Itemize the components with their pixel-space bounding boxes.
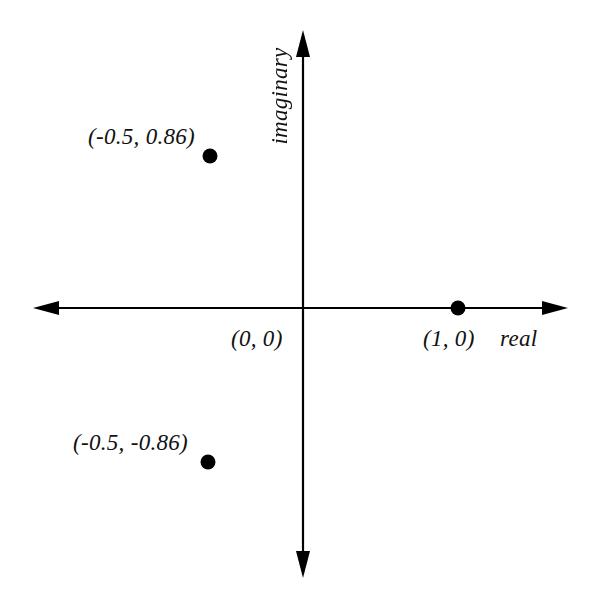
real-axis-label: real (500, 326, 537, 352)
data-point-marker (451, 301, 466, 316)
point-label-one-zero: (1, 0) (423, 326, 475, 352)
real-axis-right-arrowhead (542, 301, 568, 315)
point-label-upper: (-0.5, 0.86) (88, 124, 195, 150)
imaginary-axis-label: imaginary (224, 85, 336, 107)
data-point-marker (201, 455, 216, 470)
imaginary-axis-bottom-arrowhead (296, 551, 310, 578)
point-label-lower: (-0.5, -0.86) (73, 430, 188, 456)
origin-label: (0, 0) (231, 326, 283, 352)
imaginary-axis-top-arrowhead (296, 30, 310, 57)
data-point-marker (203, 149, 218, 164)
imaginary-axis-label-text: imaginary (266, 40, 294, 152)
real-axis-left-arrowhead (33, 301, 59, 315)
